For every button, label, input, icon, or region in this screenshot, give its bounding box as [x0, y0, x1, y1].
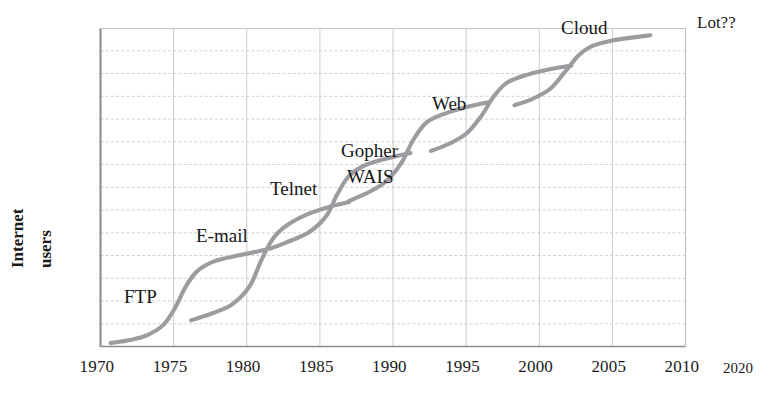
curve-label-gopher: Gopher	[341, 141, 398, 160]
x-axis-tick-1995: 1995	[445, 358, 480, 375]
x-axis-tick-1985: 1985	[299, 358, 334, 375]
x-axis-tick-1980: 1980	[226, 358, 261, 375]
x-axis-tick-2000: 2000	[518, 358, 553, 375]
curve-label-wais: WAIS	[347, 167, 393, 186]
x-axis-tick-1970: 1970	[80, 358, 115, 375]
plot-area	[0, 0, 783, 402]
lot-annotation: Lot??	[697, 14, 736, 31]
x-axis-tick-1990: 1990	[372, 358, 407, 375]
curve-label-email: E-mail	[196, 226, 248, 245]
adoption-curves	[111, 35, 651, 343]
curve-label-cloud: Cloud	[561, 18, 607, 37]
curve-label-ftp: FTP	[124, 287, 157, 306]
curve-label-telnet: Telnet	[270, 179, 317, 198]
curve-label-web: Web	[432, 94, 466, 113]
curve-web	[514, 35, 650, 105]
x-axis-tick-2005: 2005	[591, 358, 626, 375]
x-axis-tick-1975: 1975	[153, 358, 188, 375]
x-axis-tick-2010: 2010	[665, 358, 700, 375]
chart-figure: Internet users FTP E-mail Telnet Gopher …	[0, 0, 783, 402]
x-axis-extra-label: 2020	[723, 361, 753, 376]
